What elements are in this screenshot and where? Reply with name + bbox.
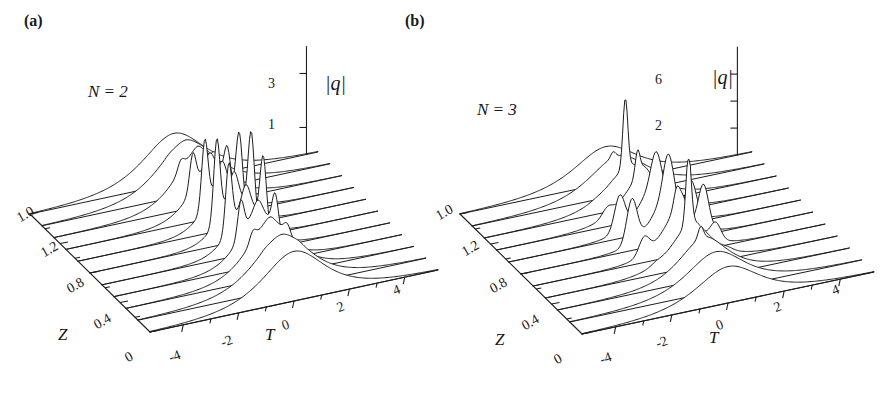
z-axis-tick	[491, 243, 499, 245]
z-axis-minor-tick	[506, 258, 511, 259]
panel-b-tag: (b)	[405, 12, 425, 30]
waterfall-curve	[582, 266, 874, 334]
z-axis-minor-tick	[75, 257, 80, 258]
panel-a-waterfall-curves	[30, 132, 438, 332]
t-axis-tick	[237, 313, 239, 320]
panel-a: (a) N = 2 |q| 3 1 Z T 1.0 1.2 0.8 0.4 0 …	[0, 0, 448, 393]
panel-b: (b) N = 3 |q| 6 2 Z T 1.0 1.2 0.8 0.4 0 …	[447, 0, 895, 393]
z-axis-minor-tick	[105, 287, 110, 288]
t-axis-tick	[839, 279, 841, 286]
panel-b-waterfall-curves	[460, 100, 874, 334]
z-axis-minor-tick	[475, 228, 480, 229]
z-axis-minor-tick	[45, 228, 50, 229]
z-axis-tick	[460, 213, 468, 215]
t-axis-tick	[783, 291, 785, 298]
t-axis-tick	[348, 289, 350, 296]
z-axis-tick	[521, 273, 529, 275]
t-axis-tick	[403, 277, 405, 284]
figure-container: (a) N = 2 |q| 3 1 Z T 1.0 1.2 0.8 0.4 0 …	[0, 0, 895, 393]
z-axis-minor-tick	[567, 318, 572, 319]
t-axis-tick	[727, 303, 729, 310]
z-axis-tick	[90, 272, 98, 274]
z-axis-minor-tick	[536, 288, 541, 289]
z-axis-minor-tick	[135, 316, 140, 317]
panel-b-plot	[447, 0, 895, 393]
t-axis-tick	[670, 315, 672, 322]
t-axis-tick	[182, 325, 184, 332]
t-axis-tick	[293, 301, 295, 308]
panel-a-plot	[0, 0, 448, 393]
z-axis-tick	[552, 303, 560, 305]
t-axis-tick	[614, 327, 616, 334]
z-axis-tick	[60, 242, 68, 244]
z-axis-tick	[582, 333, 590, 335]
z-axis-tick	[120, 301, 128, 303]
